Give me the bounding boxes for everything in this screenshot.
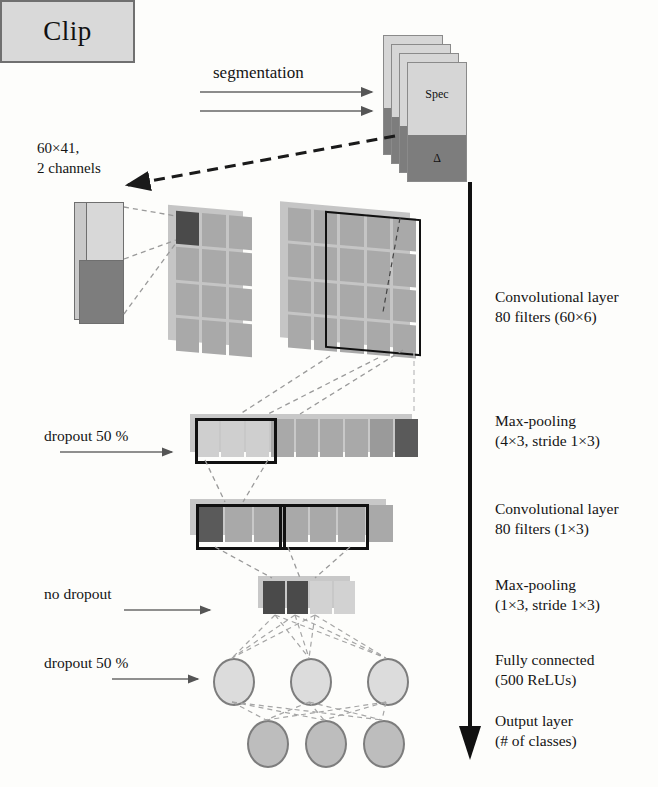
proj-input-conv-3 — [124, 243, 176, 314]
vertical-flow-arrowhead — [459, 726, 481, 760]
proj-input-conv-1 — [124, 207, 176, 216]
layer-pool1-line2: (4×3, stride 1×3) — [495, 432, 600, 451]
annotation-dropout-50-first: dropout 50 % — [44, 427, 128, 446]
layer-conv2-line1: Convolutional layer — [495, 500, 619, 519]
spec-to-input-arrow — [128, 136, 395, 185]
layer-fc-line1: Fully connected — [495, 651, 594, 670]
fc-to-output — [232, 702, 324, 720]
pool2-to-fc — [295, 615, 309, 658]
pool2-to-fc — [232, 615, 295, 658]
conv1-to-pool1-d — [300, 350, 403, 414]
fc-to-output — [232, 702, 266, 720]
layer-output-line1: Output layer — [495, 712, 573, 731]
pool1-to-conv2-a — [205, 460, 225, 502]
pool2-to-fc — [309, 615, 315, 658]
conv2-to-pool2-b — [288, 547, 300, 578]
conv1-internal-dash — [383, 218, 400, 312]
proj-input-conv-2 — [124, 240, 176, 259]
layer-output-line2: (# of classes) — [495, 732, 577, 751]
layer-pool1-line1: Max-pooling — [495, 412, 576, 431]
pool2-to-fc — [295, 615, 386, 658]
conv2-to-pool2-a — [215, 547, 272, 578]
fc-to-output — [309, 702, 382, 720]
layer-conv2-line2: 80 filters (1×3) — [495, 520, 589, 539]
fc-to-output — [232, 702, 382, 720]
pool2-to-fc — [232, 615, 275, 658]
conv2-to-pool2-c — [315, 547, 350, 578]
layer-pool2-line2: (1×3, stride 1×3) — [495, 596, 600, 615]
layer-conv1-line1: Convolutional layer — [495, 288, 619, 307]
pool1-to-conv2-b — [243, 460, 268, 502]
fc-to-output — [266, 702, 386, 720]
annotation-no-dropout: no dropout — [44, 585, 112, 604]
annotation-dropout-50-second: dropout 50 % — [44, 654, 128, 673]
layer-fc-line2: (500 ReLUs) — [495, 671, 576, 690]
conv1-to-pool1-a — [240, 356, 330, 414]
fc-to-output — [382, 702, 386, 720]
layer-conv1-line2: 80 filters (60×6) — [495, 308, 597, 327]
fc-to-output — [324, 702, 386, 720]
layer-pool2-line1: Max-pooling — [495, 576, 576, 595]
pool2-to-fc — [315, 615, 386, 658]
figure-canvas: Clip 60×41, 2 channels segmentation Spec… — [0, 0, 658, 787]
